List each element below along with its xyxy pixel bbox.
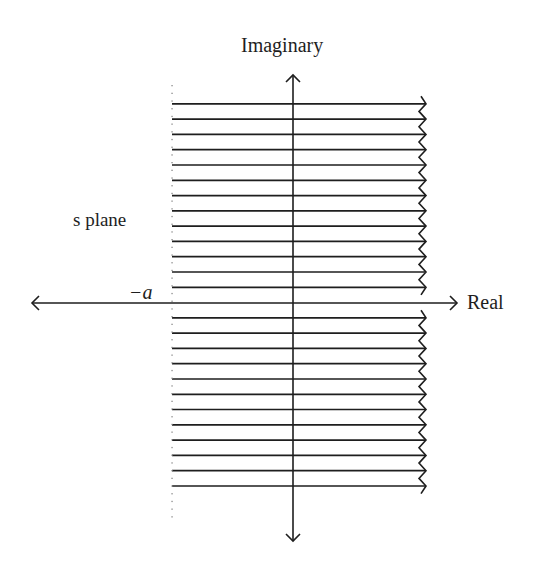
boundary-dot	[171, 301, 172, 302]
boundary-dot	[171, 116, 172, 117]
boundary-dot	[171, 447, 172, 448]
boundary-dot	[171, 124, 172, 125]
boundary-dot	[171, 439, 172, 440]
boundary-dot	[171, 347, 172, 348]
boundary-dot	[171, 154, 172, 155]
boundary-dot	[171, 308, 172, 309]
boundary-dot	[171, 331, 172, 332]
boundary-dot	[171, 339, 172, 340]
boundary-dot	[171, 470, 172, 471]
region-hatch-lines	[172, 104, 425, 486]
boundary-dot	[171, 270, 172, 271]
boundary-dot	[171, 162, 172, 163]
wavy-break-icon	[419, 310, 426, 493]
boundary-dot	[171, 139, 172, 140]
boundary-dot	[171, 516, 172, 517]
boundary-dot	[171, 239, 172, 240]
boundary-minus-a-label: −a	[129, 282, 153, 302]
s-plane-diagram: Imaginary Real s plane −a	[0, 0, 536, 573]
boundary-dot	[171, 393, 172, 394]
boundary-dot	[171, 493, 172, 494]
boundary-dot	[171, 170, 172, 171]
boundary-dot	[171, 455, 172, 456]
boundary-dot	[171, 355, 172, 356]
boundary-dot	[171, 216, 172, 217]
boundary-dot	[171, 185, 172, 186]
boundary-dot	[171, 509, 172, 510]
boundary-dot	[171, 370, 172, 371]
boundary-dot	[171, 131, 172, 132]
boundary-dot	[171, 485, 172, 486]
boundary-dot	[171, 416, 172, 417]
boundary-dot	[171, 424, 172, 425]
boundary-dot	[171, 147, 172, 148]
boundary-dot	[171, 193, 172, 194]
boundary-dot	[171, 208, 172, 209]
boundary-dot	[171, 247, 172, 248]
boundary-dot	[171, 201, 172, 202]
boundary-dot	[171, 100, 172, 101]
boundary-dot	[171, 378, 172, 379]
boundary-dot	[171, 285, 172, 286]
boundary-dot	[171, 278, 172, 279]
boundary-dot	[171, 85, 172, 86]
boundary-dot	[171, 231, 172, 232]
boundary-dot	[171, 254, 172, 255]
boundary-dot	[171, 408, 172, 409]
boundary-dot	[171, 501, 172, 502]
boundary-dot	[171, 316, 172, 317]
boundary-dot	[171, 362, 172, 363]
boundary-dot	[171, 462, 172, 463]
boundary-dot	[171, 108, 172, 109]
boundary-dot	[171, 385, 172, 386]
real-axis-label: Real	[467, 292, 504, 312]
boundary-dot	[171, 478, 172, 479]
boundary-dot	[171, 224, 172, 225]
boundary-dot	[171, 324, 172, 325]
boundary-dot	[171, 432, 172, 433]
s-plane-label: s plane	[73, 210, 126, 229]
boundary-dot	[171, 177, 172, 178]
diagram-graphics	[0, 0, 536, 573]
boundary-dot	[171, 93, 172, 94]
boundary-dot	[171, 262, 172, 263]
boundary-dot	[171, 401, 172, 402]
imaginary-axis-label: Imaginary	[241, 35, 323, 55]
boundary-dot	[171, 293, 172, 294]
